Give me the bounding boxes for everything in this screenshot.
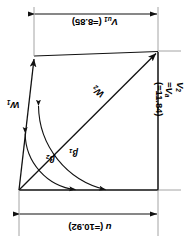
label-w1: W1 bbox=[7, 99, 19, 110]
label-beta1-symbol: β bbox=[72, 148, 78, 158]
label-vu1-symbol: V bbox=[112, 17, 118, 28]
vector-diagram-figure: Vu1 (=8.85) u (=10.92) V2 =Va (=11.84) W… bbox=[0, 0, 187, 243]
label-vu1: Vu1 (=8.85) bbox=[52, 16, 138, 27]
label-v2-line2: =Va bbox=[164, 82, 175, 97]
label-u-symbol: u bbox=[106, 222, 112, 233]
label-beta2-subscript: 2 bbox=[46, 154, 49, 161]
vector-w1 bbox=[19, 59, 34, 190]
label-vu1-subscript: u1 bbox=[104, 16, 112, 23]
label-u: u (=10.92) bbox=[44, 222, 136, 232]
label-vu1-value: (=8.85) bbox=[72, 17, 104, 28]
label-beta2-symbol: β bbox=[49, 154, 55, 164]
label-beta2: β2 bbox=[46, 154, 55, 163]
label-u-value: (=10.92) bbox=[68, 222, 105, 233]
label-beta1: β1 bbox=[69, 148, 78, 157]
label-w2: W2 bbox=[92, 86, 104, 97]
label-v2: V2 =Va (=11.84) bbox=[139, 82, 185, 164]
label-w1-symbol: W bbox=[11, 100, 20, 111]
label-beta1-subscript: 1 bbox=[69, 148, 72, 155]
label-w1-subscript: 1 bbox=[7, 99, 11, 106]
edge-top bbox=[34, 52, 158, 57]
label-v2-line3: (=11.84) bbox=[153, 82, 164, 116]
label-v2-line1: V2 bbox=[174, 82, 185, 92]
